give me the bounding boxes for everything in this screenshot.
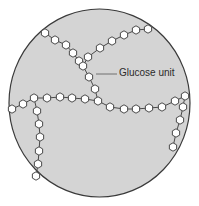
glucose-unit-hexagon xyxy=(33,107,40,115)
glucose-unit-hexagon xyxy=(169,143,176,151)
glucose-unit-hexagon xyxy=(91,85,98,93)
glucose-unit-hexagon xyxy=(81,95,88,103)
glucose-unit-hexagon xyxy=(32,172,39,180)
glucose-unit-hexagon xyxy=(108,37,115,45)
glucose-unit-hexagon xyxy=(96,44,103,52)
glucose-unit-hexagon xyxy=(62,41,69,49)
glucose-unit-hexagon xyxy=(35,147,42,155)
glucose-unit-label: Glucose unit xyxy=(119,67,175,79)
glycogen-diagram: Glucose unit xyxy=(0,0,199,206)
glucose-unit-hexagon xyxy=(8,105,15,113)
glucose-unit-hexagon xyxy=(132,105,139,113)
glucose-unit-hexagon xyxy=(68,94,75,102)
glucose-unit-hexagon xyxy=(36,133,43,141)
glucose-unit-hexagon xyxy=(43,94,50,102)
glucose-unit-hexagon xyxy=(30,94,37,102)
glucose-unit-hexagon xyxy=(41,29,48,37)
glucose-unit-hexagon xyxy=(120,31,127,39)
glucose-unit-hexagon xyxy=(56,93,63,101)
diagram-canvas xyxy=(0,0,199,206)
glucose-unit-hexagon xyxy=(158,103,165,111)
glucose-unit-hexagon xyxy=(145,104,152,112)
glucose-unit-hexagon xyxy=(35,120,42,128)
glucose-unit-hexagon xyxy=(19,100,26,108)
glucose-unit-hexagon xyxy=(132,26,139,34)
glucose-unit-hexagon xyxy=(51,36,58,44)
glucose-unit-hexagon xyxy=(171,97,178,105)
glucose-unit-hexagon xyxy=(79,62,86,70)
glucose-unit-hexagon xyxy=(179,103,186,111)
glucose-unit-hexagon xyxy=(181,92,188,100)
glucose-unit-hexagon xyxy=(176,116,183,124)
glucose-unit-hexagon xyxy=(84,53,91,61)
glucose-unit-hexagon xyxy=(34,160,41,168)
glucose-unit-hexagon xyxy=(69,49,76,57)
glucose-unit-hexagon xyxy=(144,25,151,33)
glucose-unit-hexagon xyxy=(94,97,101,105)
glucose-unit-hexagon xyxy=(106,103,113,111)
glucose-unit-hexagon xyxy=(120,105,127,113)
glucose-unit-hexagon xyxy=(172,129,179,137)
glucose-unit-hexagon xyxy=(85,73,92,81)
